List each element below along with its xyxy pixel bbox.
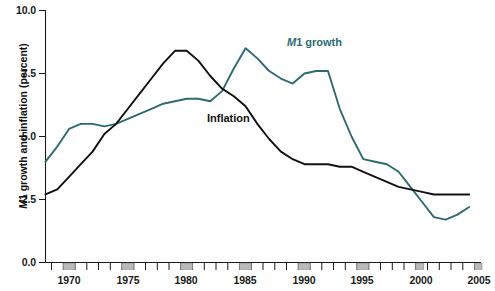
m1-growth-label-italic: M	[287, 36, 296, 48]
x-axis-ticks	[52, 263, 475, 271]
y-tick-label-0-0: 0.0	[2, 256, 36, 268]
series-line-m1-growth	[46, 48, 470, 219]
y-axis-title: M1 growth and inflation (percent)	[17, 41, 29, 211]
x-tick-label-2005: 2005	[459, 274, 495, 286]
series-line-inflation	[46, 51, 470, 195]
x-tick-label-1990: 1990	[284, 274, 324, 286]
x-tick-label-1975: 1975	[108, 274, 148, 286]
x-tick-label-1970: 1970	[49, 274, 89, 286]
y-axis-title-rest: 1 growth and inflation (percent)	[17, 43, 29, 200]
m1-growth-series-label: M1 growth	[287, 36, 342, 48]
y-axis-title-italic: M	[17, 200, 29, 209]
x-tick-label-1985: 1985	[225, 274, 265, 286]
recession-bands	[63, 263, 482, 269]
inflation-series-label: Inflation	[207, 112, 250, 124]
x-tick-label-1980: 1980	[166, 274, 206, 286]
y-tick-label-10: 10.0	[2, 4, 36, 16]
m1-growth-label-rest: 1 growth	[296, 36, 342, 48]
x-tick-label-2000: 2000	[401, 274, 441, 286]
x-tick-label-1995: 1995	[342, 274, 382, 286]
y-axis-ticks	[39, 11, 46, 263]
